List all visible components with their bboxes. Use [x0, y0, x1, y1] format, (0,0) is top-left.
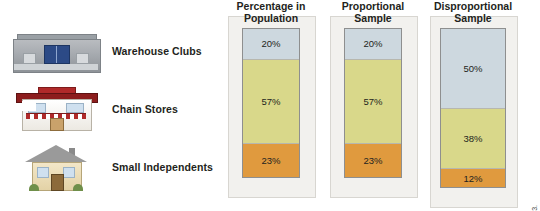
- column-title: Proportional Sample: [330, 0, 416, 24]
- row-label-chain-stores: Chain Stores: [112, 103, 178, 115]
- row-label-small-independents: Small Independents: [112, 161, 213, 173]
- warehouse-club-building-icon: [0, 31, 112, 71]
- list-item: Small Independents: [0, 138, 218, 196]
- column-title: Disproportional Sample: [430, 0, 516, 24]
- stacked-bar: 20% 57% 23%: [242, 28, 300, 178]
- bar-segment-warehouse: 20%: [243, 29, 299, 59]
- category-legend-rows: Warehouse Clubs Chain Stores: [0, 22, 218, 196]
- bar-segment-warehouse: 20%: [345, 29, 401, 59]
- column-percentage-in-population: Percentage in Population 20% 57% 23%: [228, 0, 314, 178]
- stacked-bar: 50% 38% 12%: [440, 28, 506, 188]
- stacked-bar: 20% 57% 23%: [344, 28, 402, 178]
- bar-segment-small: 23%: [345, 143, 401, 177]
- bar-segment-small: 12%: [441, 168, 505, 187]
- bar-segment-chain: 38%: [441, 108, 505, 168]
- bar-segment-warehouse: 50%: [441, 29, 505, 108]
- bar-segment-small: 23%: [243, 143, 299, 177]
- row-label-warehouse-clubs: Warehouse Clubs: [112, 45, 202, 57]
- chain-store-building-icon: [0, 87, 112, 131]
- small-independent-house-icon: [0, 143, 112, 191]
- bar-segment-chain: 57%: [345, 59, 401, 143]
- column-title: Percentage in Population: [228, 0, 314, 24]
- copyright-credit: © Cengage Learning 2013.: [531, 205, 538, 211]
- list-item: Chain Stores: [0, 80, 218, 138]
- column-disproportional-sample: Disproportional Sample 50% 38% 12%: [430, 0, 516, 188]
- list-item: Warehouse Clubs: [0, 22, 218, 80]
- bar-segment-chain: 57%: [243, 59, 299, 143]
- column-proportional-sample: Proportional Sample 20% 57% 23%: [330, 0, 416, 178]
